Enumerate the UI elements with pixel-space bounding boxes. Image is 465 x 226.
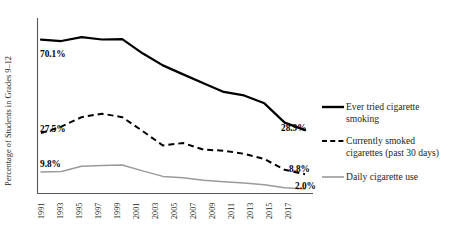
chart-legend: Ever tried cigarette smoking Currently s…: [322, 101, 439, 182]
cigarette-use-trend-chart: Percentage of Students in Grades 9–12 19…: [0, 0, 465, 226]
x-tick-1999: 1999: [113, 203, 122, 219]
x-tick-2003: 2003: [151, 203, 160, 219]
series-currently-smoked: [41, 114, 305, 175]
legend-label-ever-tried-line1: Ever tried cigarette: [346, 101, 420, 112]
x-tick-2011: 2011: [227, 203, 236, 219]
label-ever-start: 70.1%: [40, 49, 66, 59]
x-tick-1997: 1997: [94, 203, 103, 219]
label-daily-end: 2.0%: [295, 181, 316, 191]
chart-svg: Percentage of Students in Grades 9–12 19…: [0, 0, 465, 226]
x-tick-1993: 1993: [56, 203, 65, 219]
x-axis-tick-labels: 1991 1993 1995 1997 1999 2001 2003 2005 …: [37, 203, 293, 219]
label-current-start: 27.5%: [40, 124, 66, 134]
legend-label-currently-smoked-line1: Currently smoked: [346, 135, 415, 146]
x-tick-2015: 2015: [265, 203, 274, 219]
x-tick-2007: 2007: [189, 203, 198, 219]
x-tick-2017: 2017: [284, 203, 293, 219]
legend-label-currently-smoked-line2: cigarettes (past 30 days): [346, 147, 439, 159]
x-tick-1991: 1991: [37, 203, 46, 219]
label-current-end: 8.8%: [289, 164, 310, 174]
data-point-labels: 70.1% 28.9% 27.5% 8.8% 9.8% 2.0%: [40, 49, 316, 191]
series-ever-tried: [41, 37, 305, 130]
y-axis-title: Percentage of Students in Grades 9–12: [4, 56, 13, 186]
x-tick-2013: 2013: [246, 203, 255, 219]
legend-label-daily-use: Daily cigarette use: [346, 171, 418, 182]
label-daily-start: 9.8%: [40, 159, 61, 169]
x-tick-2001: 2001: [132, 203, 141, 219]
series-daily-cigarette-use: [41, 165, 305, 189]
x-tick-1995: 1995: [75, 203, 84, 219]
label-ever-end: 28.9%: [281, 123, 307, 133]
x-tick-2005: 2005: [170, 203, 179, 219]
legend-label-ever-tried-line2: smoking: [346, 113, 379, 124]
x-tick-2009: 2009: [208, 203, 217, 219]
